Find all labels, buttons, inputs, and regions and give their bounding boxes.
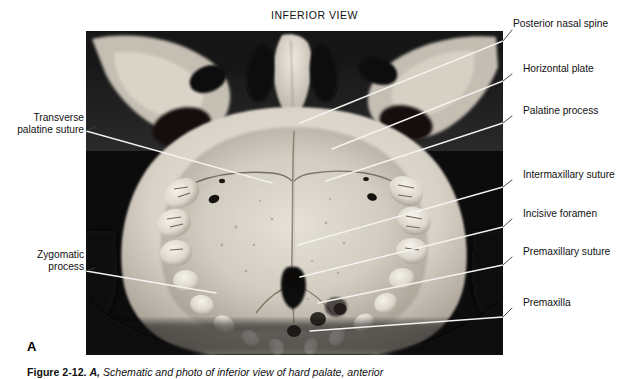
label-intermaxillary-suture: Intermaxillary suture: [523, 169, 615, 181]
caption-body: Schematic and photo of inferior view of …: [103, 366, 383, 378]
anatomy-photograph: [86, 31, 503, 355]
label-incisive-foramen: Incisive foramen: [523, 208, 597, 220]
label-zygomatic-process: Zygomatic process: [0, 249, 84, 274]
label-premaxillary-suture: Premaxillary suture: [523, 246, 610, 258]
label-transverse-palatine-suture: Transverse palatine suture: [0, 112, 84, 137]
label-horizontal-plate: Horizontal plate: [523, 63, 594, 75]
photograph-image: [86, 31, 503, 355]
label-palatine-process: Palatine process: [523, 105, 598, 117]
caption-figure-number: Figure 2-12.: [27, 366, 86, 378]
caption-panel-letter: A,: [89, 366, 100, 378]
figure-caption: Figure 2-12. A, Schematic and photo of i…: [27, 366, 617, 379]
label-premaxilla: Premaxilla: [523, 297, 571, 309]
label-posterior-nasal-spine: Posterior nasal spine: [513, 18, 608, 30]
panel-letter-a: A: [27, 339, 36, 354]
